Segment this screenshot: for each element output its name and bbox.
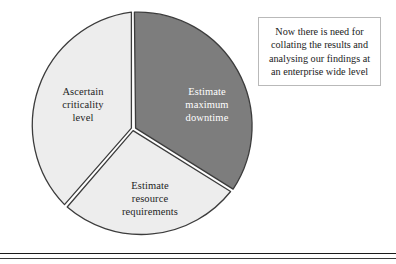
note-callout-text: Now there is need for collating the resu… [265,25,374,78]
pie-chart-figure: Ascertain criticality level Estimate max… [0,0,396,264]
bottom-divider-rule-secondary [0,258,396,259]
bottom-divider-rule [0,253,396,254]
pie-chart-svg [12,4,256,252]
pie-chart: Ascertain criticality level Estimate max… [12,4,256,252]
note-callout-box: Now there is need for collating the resu… [258,17,381,86]
